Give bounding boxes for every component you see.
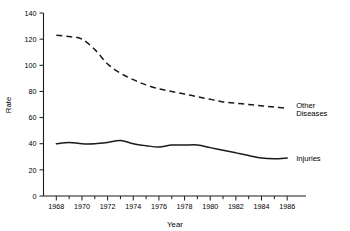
y-axis-tick-labels: 020406080100120140 <box>25 9 37 201</box>
series-line-injuries <box>56 140 287 158</box>
series-line-other-diseases <box>56 35 287 108</box>
series-label-other-diseases-line2: Diseases <box>296 109 327 118</box>
y-tick-label: 0 <box>33 192 37 201</box>
series-label-injuries: Injuries <box>296 154 321 163</box>
y-tick-label: 20 <box>29 166 37 175</box>
line-chart: 020406080100120140 196819701972197419761… <box>0 0 350 231</box>
y-tick-label: 60 <box>29 113 37 122</box>
x-tick-label: 1978 <box>177 202 193 211</box>
chart-container: 020406080100120140 196819701972197419761… <box>0 0 350 231</box>
x-tick-label: 1974 <box>125 202 141 211</box>
chart-series <box>56 35 287 159</box>
x-axis-title: Year <box>167 220 183 229</box>
x-tick-label: 1976 <box>151 202 167 211</box>
chart-axes <box>44 13 307 196</box>
x-tick-label: 1970 <box>74 202 90 211</box>
y-tick-label: 140 <box>25 9 37 18</box>
x-tick-label: 1986 <box>279 202 295 211</box>
x-axis-tick-labels: 1968197019721974197619781980198219841986 <box>48 202 295 211</box>
y-axis-title: Rate <box>4 97 13 113</box>
y-tick-label: 100 <box>25 61 37 70</box>
x-tick-label: 1982 <box>228 202 244 211</box>
x-tick-label: 1968 <box>48 202 64 211</box>
x-tick-label: 1984 <box>254 202 270 211</box>
y-tick-label: 120 <box>25 35 37 44</box>
series-inline-labels: OtherDiseasesInjuries <box>296 101 327 163</box>
x-tick-label: 1980 <box>202 202 218 211</box>
x-tick-label: 1972 <box>100 202 116 211</box>
y-tick-label: 40 <box>29 139 37 148</box>
y-tick-label: 80 <box>29 87 37 96</box>
chart-tick-marks <box>40 13 288 201</box>
